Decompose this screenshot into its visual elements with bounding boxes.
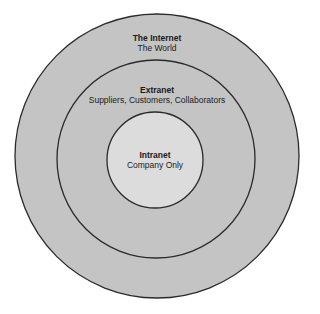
internet-title: The Internet bbox=[133, 33, 182, 43]
extranet-subtitle: Suppliers, Customers, Collaborators bbox=[89, 95, 226, 105]
intranet-title: Intranet bbox=[127, 150, 183, 160]
intranet-label: Intranet Company Only bbox=[127, 150, 183, 170]
internet-subtitle: The World bbox=[133, 43, 182, 53]
extranet-label: Extranet Suppliers, Customers, Collabora… bbox=[89, 85, 226, 105]
intranet-subtitle: Company Only bbox=[127, 160, 183, 170]
internet-label: The Internet The World bbox=[133, 33, 182, 53]
extranet-title: Extranet bbox=[89, 85, 226, 95]
